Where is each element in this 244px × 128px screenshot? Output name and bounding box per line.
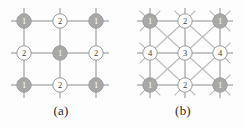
node-circle-shaded [143, 14, 157, 28]
lattice-node[interactable]: 1 [17, 78, 31, 92]
lattice-node[interactable]: 1 [53, 46, 67, 60]
lattice-node[interactable]: 4 [213, 46, 227, 60]
node-layer: 121212121 [17, 14, 103, 92]
panel-caption-a: (a) [0, 103, 122, 119]
node-layer: 121434121 [143, 14, 227, 92]
lattice-node[interactable]: 1 [213, 14, 227, 28]
figure-panel-a: 121212121 (a) [0, 0, 122, 128]
node-circle-shaded [17, 78, 31, 92]
node-circle-plain [178, 14, 192, 28]
lattice-node[interactable]: 2 [178, 14, 192, 28]
node-circle-plain [143, 46, 157, 60]
lattice-node[interactable]: 1 [143, 14, 157, 28]
lattice-node[interactable]: 4 [143, 46, 157, 60]
node-circle-shaded [53, 46, 67, 60]
lattice-node[interactable]: 1 [89, 78, 103, 92]
node-circle-shaded [213, 78, 227, 92]
lattice-node[interactable]: 1 [17, 14, 31, 28]
node-circle-plain [89, 46, 103, 60]
lattice-node[interactable]: 2 [53, 14, 67, 28]
panel-caption-b: (b) [122, 103, 244, 119]
figure-root: 121212121 (a) 121434121 (b) [0, 0, 244, 128]
lattice-node[interactable]: 1 [89, 14, 103, 28]
node-circle-plain [53, 14, 67, 28]
node-circle-plain [178, 46, 192, 60]
lattice-node[interactable]: 2 [53, 78, 67, 92]
lattice-graph-a: 121212121 [0, 0, 122, 106]
figure-panel-b: 121434121 (b) [122, 0, 244, 128]
lattice-node[interactable]: 3 [178, 46, 192, 60]
node-circle-shaded [143, 78, 157, 92]
node-circle-shaded [89, 14, 103, 28]
lattice-node[interactable]: 1 [143, 78, 157, 92]
lattice-node[interactable]: 1 [213, 78, 227, 92]
lattice-node[interactable]: 2 [178, 78, 192, 92]
node-circle-shaded [17, 14, 31, 28]
lattice-graph-b: 121434121 [122, 0, 244, 106]
node-circle-plain [17, 46, 31, 60]
node-circle-shaded [89, 78, 103, 92]
lattice-node[interactable]: 2 [89, 46, 103, 60]
lattice-node[interactable]: 2 [17, 46, 31, 60]
node-circle-plain [178, 78, 192, 92]
node-circle-plain [53, 78, 67, 92]
node-circle-shaded [213, 14, 227, 28]
node-circle-plain [213, 46, 227, 60]
